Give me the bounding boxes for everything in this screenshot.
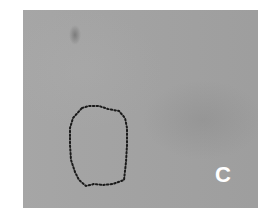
panel-label: C	[215, 164, 231, 186]
microscopy-panel: C	[23, 10, 258, 208]
